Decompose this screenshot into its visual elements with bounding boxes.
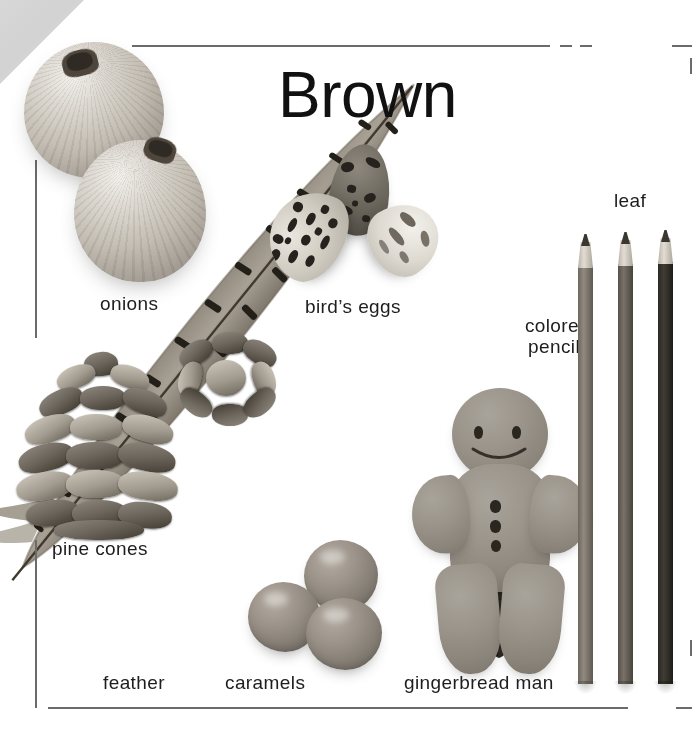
gingerbread-eye-right <box>512 426 521 439</box>
frame-rule-top-dash-2 <box>580 45 592 47</box>
birds-eggs-image <box>262 142 442 288</box>
label-birds-eggs: bird’s eggs <box>305 296 401 317</box>
onions-image <box>18 34 218 284</box>
gingerbread-leg-right <box>495 562 566 677</box>
color-page-brown: Brown onions <box>0 0 699 753</box>
gingerbread-button-2 <box>490 520 501 533</box>
frame-rule-bottom-dash <box>676 707 692 709</box>
pencil-light <box>578 228 593 684</box>
frame-rule-left-lower <box>35 540 37 708</box>
frame-rule-right-dash-1 <box>690 58 692 74</box>
label-onions: onions <box>100 293 158 314</box>
frame-rule-top-dash-3 <box>672 45 692 47</box>
caramel-bottom <box>306 598 382 670</box>
gingerbread-button-1 <box>490 500 501 513</box>
label-caramels: caramels <box>225 672 305 693</box>
label-pine-cones: pine cones <box>52 538 148 559</box>
gingerbread-leg-left <box>433 562 504 677</box>
pencil-dark <box>658 224 673 684</box>
frame-rule-bottom <box>48 707 628 709</box>
gingerbread-man-image <box>412 388 592 678</box>
frame-rule-right-dash-2 <box>690 640 692 656</box>
onion-bottom <box>74 140 206 282</box>
pine-cone-large <box>14 352 194 542</box>
label-leaf: leaf <box>614 190 646 211</box>
pine-cone-small <box>172 330 282 434</box>
frame-rule-top-dash-1 <box>560 45 572 47</box>
page-title: Brown <box>278 58 457 132</box>
pencil-medium <box>618 226 633 684</box>
caramels-image <box>244 540 404 670</box>
gingerbread-button-3 <box>491 540 501 552</box>
gingerbread-smile <box>470 446 528 468</box>
label-gingerbread-man: gingerbread man <box>404 672 554 693</box>
label-feather: feather <box>103 672 165 693</box>
label-colored-pencils: coloredpencils <box>478 315 590 358</box>
gingerbread-eye-left <box>474 426 483 439</box>
